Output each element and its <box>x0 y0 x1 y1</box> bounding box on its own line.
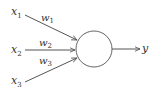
output-label-y: y <box>141 42 149 55</box>
weight-label-w1: w1 <box>41 12 54 25</box>
input-label-x1: x1 <box>11 5 22 20</box>
input-label-x3: x3 <box>11 74 22 89</box>
input-label-x2: x2 <box>11 43 22 58</box>
perceptron-diagram: x1 x2 x3 w1 w2 w3 y <box>0 0 157 93</box>
neuron-node <box>76 31 112 67</box>
weight-label-w2: w2 <box>39 37 52 50</box>
weight-label-w3: w3 <box>39 55 52 68</box>
